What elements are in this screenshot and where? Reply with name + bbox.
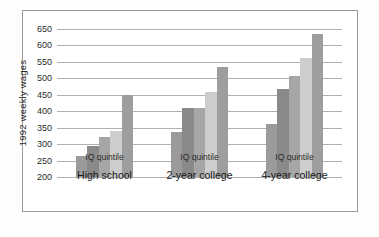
group-category-label: 4-year college: [262, 169, 328, 181]
y-axis-title: 1992 weekly wages: [17, 60, 28, 146]
chart-figure: 1992 weekly wages 6506005505004504003503…: [0, 0, 379, 237]
y-tick-label: 400: [37, 107, 52, 116]
y-tick-label: 500: [37, 74, 52, 83]
y-tick-label: 550: [37, 57, 52, 66]
group-category-label: 2-year college: [167, 169, 233, 181]
group-quintile-label: IQ quintile: [180, 152, 218, 162]
bar: [194, 108, 206, 177]
y-tick-label: 250: [37, 156, 52, 165]
group-quintile-label: IQ quintile: [85, 152, 123, 162]
y-tick-label: 300: [37, 140, 52, 149]
y-tick-label: 600: [37, 41, 52, 50]
y-tick-label: 200: [37, 173, 52, 182]
bar: [205, 92, 217, 178]
bar: [277, 89, 289, 177]
y-tick-label: 350: [37, 123, 52, 132]
group-category-label: High school: [77, 169, 132, 181]
bar: [182, 108, 194, 177]
y-tick-label: 650: [37, 25, 52, 34]
bar: [122, 95, 134, 177]
y-tick-label: 450: [37, 90, 52, 99]
group-quintile-label: IQ quintile: [275, 152, 313, 162]
